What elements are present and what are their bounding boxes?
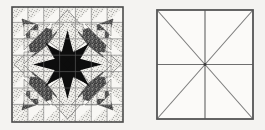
- figure-right-eight-sector-square-grid: [157, 10, 253, 119]
- center-point: [204, 63, 207, 66]
- figure-canvas: Feathered star quilt block Pieced quilt …: [0, 0, 265, 130]
- figure-left-feathered-star-quilt-block: [0, 0, 265, 130]
- quilt-block-body: [12, 7, 123, 122]
